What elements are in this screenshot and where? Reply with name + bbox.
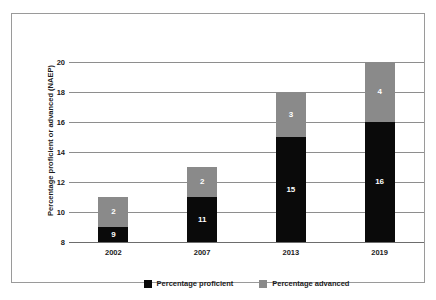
chart-figure: Percentage proficient or advanced (NAEP)… (0, 0, 436, 300)
gridline-8 (69, 242, 424, 243)
bar-label-advanced-2002: 2 (111, 208, 115, 216)
bar-label-advanced-2007: 2 (200, 178, 204, 186)
legend-swatch-icon-advanced (259, 280, 267, 288)
chart-legend: Percentage proficientPercentage advanced (69, 279, 424, 288)
bar-segment-advanced-2002[interactable]: 2 (98, 197, 128, 227)
bar-label-proficient-2019: 16 (375, 178, 384, 186)
bar-segment-proficient-2019[interactable]: 16 (365, 122, 395, 242)
x-tick-label-2019: 2019 (350, 248, 410, 257)
chart-frame: Percentage proficient or advanced (NAEP)… (11, 13, 425, 283)
bar-2002[interactable]: 29 (98, 197, 128, 242)
bar-label-advanced-2019: 4 (377, 88, 381, 96)
legend-swatch-icon-proficient (144, 280, 152, 288)
y-tick-label-18: 18 (43, 88, 65, 97)
x-tick-label-2013: 2013 (261, 248, 321, 257)
bar-segment-proficient-2002[interactable]: 9 (98, 227, 128, 242)
bar-segment-advanced-2019[interactable]: 4 (365, 62, 395, 122)
legend-label: Percentage proficient (157, 279, 234, 288)
bar-segment-advanced-2013[interactable]: 3 (276, 92, 306, 137)
bar-label-proficient-2013: 15 (286, 186, 295, 194)
y-tick-label-12: 12 (43, 178, 65, 187)
bar-segment-proficient-2007[interactable]: 11 (187, 197, 217, 242)
y-tick-label-10: 10 (43, 208, 65, 217)
y-axis-tick-labels: 2018161412108 (41, 62, 65, 242)
bar-segment-advanced-2007[interactable]: 2 (187, 167, 217, 197)
bar-label-proficient-2007: 11 (198, 216, 206, 224)
y-tick-label-8: 8 (43, 238, 65, 247)
y-tick-label-14: 14 (43, 148, 65, 157)
legend-item-advanced[interactable]: Percentage advanced (259, 279, 349, 288)
bar-2007[interactable]: 211 (187, 167, 217, 242)
bar-2013[interactable]: 315 (276, 92, 306, 242)
plot-area: 29211315416 2002200720132019 Percentage … (69, 62, 424, 242)
bar-segment-proficient-2013[interactable]: 15 (276, 137, 306, 242)
bar-label-advanced-2013: 3 (289, 111, 293, 119)
x-tick-label-2002: 2002 (83, 248, 143, 257)
y-tick-label-20: 20 (43, 58, 65, 67)
legend-label: Percentage advanced (272, 279, 349, 288)
y-tick-label-16: 16 (43, 118, 65, 127)
legend-item-proficient[interactable]: Percentage proficient (144, 279, 234, 288)
bar-2019[interactable]: 416 (365, 62, 395, 242)
bar-label-proficient-2002: 9 (111, 231, 115, 239)
x-tick-label-2007: 2007 (172, 248, 232, 257)
